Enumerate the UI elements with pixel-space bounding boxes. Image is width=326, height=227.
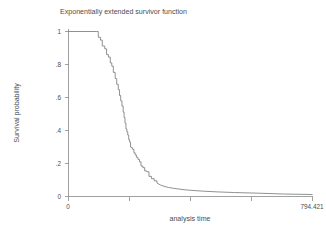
x-tick-label-min: 0 (66, 203, 70, 210)
x-tick-label-max: 794.421 (300, 203, 324, 210)
y-tick-label-08: .8 (56, 61, 62, 68)
y-axis-title: Survival probability (13, 83, 21, 143)
chart-figure: Exponentially extended survivor function… (0, 0, 326, 227)
y-tick-label-02: .2 (56, 160, 62, 167)
x-axis-tick-labels: 0 794.421 (66, 203, 324, 210)
x-axis-title: analysis time (169, 215, 210, 223)
chart-title: Exponentially extended survivor function (60, 8, 187, 16)
survivor-curve (69, 32, 313, 195)
y-tick-label-0: 0 (57, 193, 61, 200)
x-axis-ticks (69, 197, 313, 201)
y-tick-label-06: .6 (56, 94, 62, 101)
y-axis-tick-labels: 1 .8 .6 .4 .2 0 (56, 28, 62, 200)
y-tick-label-04: .4 (56, 127, 62, 134)
y-axis-ticks (65, 32, 69, 197)
survivor-function-plot: Exponentially extended survivor function… (0, 0, 326, 227)
y-tick-label-1: 1 (57, 28, 61, 35)
